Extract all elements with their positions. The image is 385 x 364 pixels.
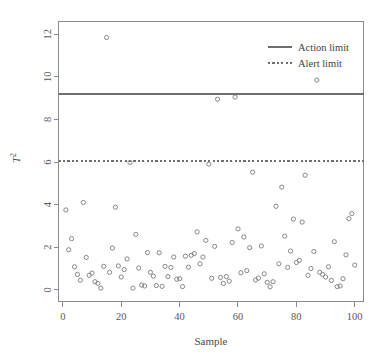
data-point (107, 270, 111, 274)
chart-canvas: 020406080100 024681012 Action limitAlert… (0, 0, 385, 364)
data-point (84, 255, 88, 259)
data-point (318, 270, 322, 274)
data-point (300, 220, 304, 224)
data-point (315, 78, 319, 82)
data-point (236, 227, 240, 231)
data-point (230, 240, 234, 244)
data-point (341, 277, 345, 281)
data-point (280, 185, 284, 189)
data-point (110, 246, 114, 250)
data-point (265, 280, 269, 284)
data-point (344, 253, 348, 257)
data-point (347, 217, 351, 221)
x-axis-ticks: 020406080100 (60, 302, 362, 322)
data-point (201, 255, 205, 259)
data-point (87, 273, 91, 277)
data-point (283, 234, 287, 238)
data-point (116, 264, 120, 268)
data-point (198, 262, 202, 266)
data-point (180, 285, 184, 289)
data-point (186, 265, 190, 269)
data-point (157, 251, 161, 255)
data-point (183, 254, 187, 258)
data-point (207, 162, 211, 166)
data-point (274, 204, 278, 208)
y-tick-label: 2 (42, 245, 53, 250)
data-point (233, 95, 237, 99)
data-point (210, 276, 214, 280)
data-point (160, 284, 164, 288)
data-point (353, 263, 357, 267)
data-point (119, 275, 123, 279)
data-point (70, 237, 74, 241)
data-point (151, 274, 155, 278)
data-point (215, 97, 219, 101)
data-point (145, 250, 149, 254)
data-point (172, 255, 176, 259)
y-tick-label: 12 (42, 29, 53, 40)
data-point (81, 200, 85, 204)
data-point (169, 265, 173, 269)
data-point (78, 278, 82, 282)
x-tick-label: 60 (233, 311, 244, 322)
data-point (291, 217, 295, 221)
y-axis-ticks: 024681012 (42, 29, 59, 292)
data-point (262, 272, 266, 276)
data-point (102, 264, 106, 268)
data-point (332, 240, 336, 244)
data-point (268, 285, 272, 289)
data-point (221, 281, 225, 285)
y-axis-label: T2 (9, 153, 22, 163)
data-point (271, 280, 275, 284)
data-point (227, 279, 231, 283)
data-point (224, 274, 228, 278)
legend-label: Alert limit (298, 58, 342, 69)
y-tick-label: 8 (42, 117, 53, 122)
data-point (350, 211, 354, 215)
data-point (90, 271, 94, 275)
y-tick-label: 6 (42, 159, 53, 164)
data-point (309, 266, 313, 270)
data-point (218, 275, 222, 279)
data-point (245, 269, 249, 273)
data-point (195, 230, 199, 234)
reference-limit-lines (59, 94, 364, 161)
chart-legend: Action limitAlert limit (268, 42, 349, 69)
data-point (277, 262, 281, 266)
data-points (64, 35, 357, 290)
data-point (122, 267, 126, 271)
x-tick-label: 80 (291, 311, 302, 322)
data-point (166, 274, 170, 278)
data-point (178, 277, 182, 281)
data-point (294, 260, 298, 264)
data-point (134, 232, 138, 236)
data-point (105, 35, 109, 39)
x-tick-label: 20 (116, 311, 127, 322)
data-point (75, 272, 79, 276)
data-point (239, 271, 243, 275)
data-point (163, 264, 167, 268)
y-tick-label: 10 (42, 72, 53, 83)
data-point (154, 283, 158, 287)
data-point (64, 208, 68, 212)
x-tick-label: 40 (174, 311, 185, 322)
data-point (99, 286, 103, 290)
data-point (72, 265, 76, 269)
data-point (248, 246, 252, 250)
data-point (125, 257, 129, 261)
data-point (137, 266, 141, 270)
control-chart: 020406080100 024681012 Action limitAlert… (0, 0, 385, 364)
data-point (338, 284, 342, 288)
data-point (286, 265, 290, 269)
data-point (148, 270, 152, 274)
x-tick-label: 100 (347, 311, 363, 322)
data-point (250, 170, 254, 174)
data-point (306, 273, 310, 277)
data-point (303, 173, 307, 177)
data-point (113, 205, 117, 209)
data-point (213, 244, 217, 248)
y-tick-label: 4 (42, 201, 53, 207)
data-point (131, 286, 135, 290)
data-point (67, 248, 71, 252)
x-axis-label: Sample (195, 335, 228, 347)
